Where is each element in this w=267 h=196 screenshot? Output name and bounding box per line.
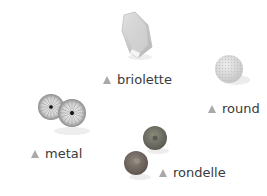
triangle-marker-icon bbox=[159, 169, 167, 177]
round-bead-image[interactable] bbox=[212, 52, 252, 88]
metal-label[interactable]: metal bbox=[31, 146, 82, 161]
metal-bead-icon bbox=[36, 93, 92, 137]
rondelle-label-text: rondelle bbox=[173, 165, 226, 180]
rondelle-label[interactable]: rondelle bbox=[159, 165, 226, 180]
briolette-icon bbox=[118, 11, 156, 61]
triangle-marker-icon bbox=[103, 76, 111, 84]
triangle-marker-icon bbox=[208, 105, 216, 113]
briolette-bead-image[interactable] bbox=[118, 11, 156, 61]
metal-label-text: metal bbox=[45, 146, 82, 161]
metal-bead-image[interactable] bbox=[36, 93, 92, 137]
round-label-text: round bbox=[222, 101, 260, 116]
briolette-label-text: briolette bbox=[117, 72, 172, 87]
triangle-marker-icon bbox=[31, 150, 39, 158]
round-bead-icon bbox=[212, 52, 252, 88]
round-label[interactable]: round bbox=[208, 101, 260, 116]
briolette-label[interactable]: briolette bbox=[103, 72, 172, 87]
